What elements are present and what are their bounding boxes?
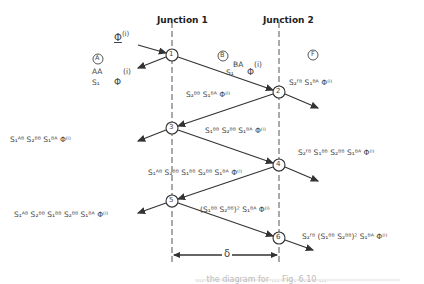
term-left-node3: S₁ᴬᴮ S₂ᴮᴮ S₁ᴮᴬ Φ⁽ⁱ⁾ <box>10 135 71 144</box>
node-6: 6 <box>276 234 280 241</box>
term-ba-phi: Φ <box>247 67 254 77</box>
term-seg-5-6: (S₁ᴮᴮ S₂ᴮᴮ)² S₁ᴮᴬ Φ⁽ⁱ⁾ <box>200 205 270 214</box>
term-seg-2-3: S₂ᴮᴮ S₁ᴮᴬ Φ⁽ⁱ⁾ <box>186 90 230 99</box>
term-aa-s1: S₁ <box>92 78 100 87</box>
node-3: 3 <box>169 124 173 131</box>
node-1: 1 <box>169 51 173 58</box>
term-reflected-aa: AA <box>92 67 102 76</box>
term-seg-3-4: S₁ᴮᴮ S₂ᴮᴮ S₁ᴮᴬ Φ⁽ⁱ⁾ <box>205 126 266 135</box>
term-ba-i: (i) <box>254 60 262 69</box>
delta-label: δ <box>222 249 232 259</box>
figure-caption: … the diagram for … Fig. 6.10 … <box>196 276 327 284</box>
incident-phi: Φ(i) <box>114 33 129 43</box>
region-f-label: F <box>311 51 315 58</box>
junction-2-header: Junction 2 <box>263 15 314 25</box>
term-f-node4: S₂ᶠᴮ S₁ᴮᴮ S₂ᴮᴮ S₁ᴮᴬ Φ⁽ⁱ⁾ <box>298 148 374 157</box>
junction-1-header: Junction 1 <box>157 15 208 25</box>
node-2: 2 <box>276 88 280 95</box>
node-4: 4 <box>276 161 280 168</box>
node-5: 5 <box>169 197 173 204</box>
term-f-node2: S₂ᶠᴮ S₁ᴮᴬ Φ⁽ⁱ⁾ <box>289 78 332 87</box>
region-a-label: A <box>95 55 99 62</box>
term-aa-i: (i) <box>123 67 131 76</box>
term-f-node6: S₂ᶠᴮ (S₁ᴮᴮ S₂ᴮᴮ)² S₁ᴮᴬ Φ⁽ⁱ⁾ <box>302 232 387 241</box>
term-ba-s1: S₁ <box>226 68 234 77</box>
term-ba-sup: BA <box>233 60 243 69</box>
term-aa-phi: Φ <box>114 77 121 87</box>
term-seg-4-5: S₁ᴬᴮ S₂ᴮᴮ S₁ᴮᴮ S₂ᴮᴮ S₁ᴮᴬ Φ⁽ⁱ⁾ <box>148 168 242 177</box>
region-b-label: B <box>220 52 224 59</box>
term-left-node5: S₁ᴬᴮ S₂ᴮᴮ S₁ᴮᴮ S₂ᴮᴮ S₁ᴮᴬ Φ⁽ⁱ⁾ <box>14 210 108 219</box>
